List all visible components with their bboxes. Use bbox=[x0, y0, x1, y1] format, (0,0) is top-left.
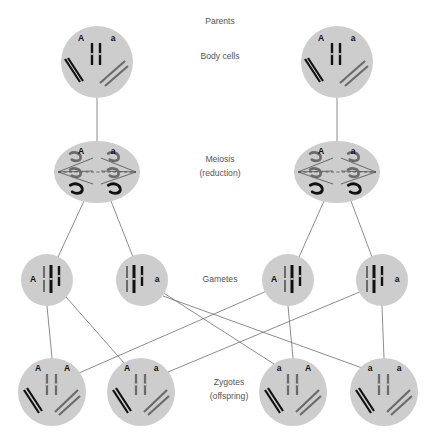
gamete-4-allele: a bbox=[395, 274, 400, 284]
zygote-2-allele-right: a bbox=[154, 363, 159, 373]
gamete-4: a bbox=[356, 254, 408, 306]
label-body-cells: Body cells bbox=[200, 51, 239, 61]
meiosis-left-allele-left: A bbox=[78, 146, 84, 156]
conn-g4-z4 bbox=[382, 306, 384, 358]
zygote-3-allele-left: a bbox=[277, 363, 282, 373]
connector-lines bbox=[47, 98, 384, 373]
label-zygotes: Zygotes bbox=[214, 377, 245, 387]
conn-g2-z3 bbox=[162, 292, 274, 364]
parent-right-allele-left: A bbox=[318, 33, 324, 43]
meiosis-right-allele-right: a bbox=[351, 146, 356, 156]
zygote-4-allele-right: a bbox=[397, 363, 402, 373]
meiosis-right-allele-left: A bbox=[318, 146, 324, 156]
conn-g2-z4 bbox=[163, 296, 365, 369]
gamete-3: A bbox=[262, 254, 314, 306]
conn-g1-z1 bbox=[47, 306, 52, 358]
gamete-2-allele: a bbox=[155, 274, 160, 284]
zygote-4-allele-left: a bbox=[368, 363, 373, 373]
gamete-3-allele: A bbox=[271, 274, 277, 284]
conn-g1-z2 bbox=[66, 297, 125, 364]
label-gametes: Gametes bbox=[203, 274, 238, 284]
parent-left: Aa bbox=[61, 26, 133, 98]
gamete-1: A bbox=[21, 254, 73, 306]
gamete-1-membrane bbox=[21, 254, 73, 306]
conn-g3-z1 bbox=[79, 290, 269, 373]
parent-cells-group: AaAa bbox=[61, 26, 373, 98]
label-zygotes-offspring: (offspring) bbox=[210, 391, 249, 401]
diagram-canvas: AaAa AaAa AaAa AAAaaAaa ParentsBody cell… bbox=[0, 0, 434, 442]
zygote-2: Aa bbox=[107, 358, 175, 426]
meiosis-left-allele-right: a bbox=[111, 146, 116, 156]
gamete-1-allele: A bbox=[30, 274, 36, 284]
meiosis-fertilization-diagram: AaAa AaAa AaAa AAAaaAaa ParentsBody cell… bbox=[0, 0, 434, 442]
conn-mR-g3 bbox=[299, 201, 324, 257]
zygote-3: aA bbox=[259, 358, 327, 426]
conn-mL-g1 bbox=[58, 201, 84, 257]
label-meiosis: Meiosis bbox=[205, 154, 234, 164]
zygote-3-allele-right: A bbox=[305, 363, 311, 373]
conn-g3-z3 bbox=[288, 306, 293, 358]
zygote-2-allele-left: A bbox=[124, 363, 130, 373]
conn-g4-z2 bbox=[168, 291, 362, 372]
label-parents: Parents bbox=[205, 16, 235, 26]
parent-right: Aa bbox=[301, 26, 373, 98]
meiosis-right: Aa bbox=[294, 141, 380, 203]
stage-labels-group: ParentsBody cellsMeiosis(reduction)Gamet… bbox=[199, 16, 248, 401]
meiosis-left: Aa bbox=[54, 141, 140, 203]
conn-mR-g4 bbox=[351, 201, 372, 257]
parent-left-allele-right: a bbox=[111, 33, 116, 43]
gamete-3-membrane bbox=[262, 254, 314, 306]
zygote-1-allele-left: A bbox=[35, 363, 41, 373]
gamete-2: a bbox=[116, 254, 168, 306]
zygote-1: AA bbox=[18, 358, 86, 426]
zygote-1-allele-right: A bbox=[64, 363, 70, 373]
zygote-4: aa bbox=[350, 358, 418, 426]
label-meiosis-reduction: (reduction) bbox=[199, 168, 240, 178]
parent-left-allele-left: A bbox=[78, 33, 84, 43]
conn-mL-g2 bbox=[111, 201, 133, 257]
parent-right-allele-right: a bbox=[351, 33, 356, 43]
